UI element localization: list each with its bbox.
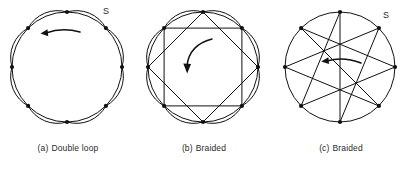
diagram-panel-b: (b)Braided (136, 0, 272, 171)
caption-c: (c)Braided (273, 143, 409, 153)
node (104, 104, 108, 108)
node (162, 26, 166, 30)
figure-root: S (a)Double loop (0, 0, 409, 171)
braided-skip3-diagram: S (273, 0, 409, 140)
node (256, 65, 260, 69)
node (10, 65, 14, 69)
node (162, 104, 166, 108)
node (65, 120, 69, 124)
caption-b: (b)Braided (136, 143, 272, 153)
caption-label-c: Braided (333, 143, 363, 153)
node (26, 26, 30, 30)
node (120, 65, 124, 69)
caption-label-b: Braided (196, 143, 226, 153)
direction-arrow-c (321, 57, 361, 64)
caption-tag-a: (a) (38, 143, 49, 153)
node (393, 65, 397, 69)
node (338, 10, 342, 14)
node (240, 26, 244, 30)
caption-tag-c: (c) (319, 143, 329, 153)
double-loop-diagram: S (0, 0, 136, 140)
node-group-a (10, 10, 124, 124)
caption-tag-b: (b) (182, 143, 193, 153)
caption-a: (a)Double loop (0, 143, 136, 153)
diagram-panel-c: S (c)Braided (273, 0, 409, 171)
node (201, 10, 205, 14)
node (299, 26, 303, 30)
direction-arrow-b (183, 39, 212, 74)
caption-label-a: Double loop (51, 143, 98, 153)
node (65, 10, 69, 14)
node-group-b (146, 10, 260, 124)
node (338, 120, 342, 124)
direction-arrow-a (41, 29, 81, 36)
node (299, 104, 303, 108)
node (201, 120, 205, 124)
diagram-panel-a: S (a)Double loop (0, 0, 136, 171)
braided-skip2-diagram (136, 0, 272, 140)
node (377, 26, 381, 30)
node (240, 104, 244, 108)
source-label-c: S (383, 10, 389, 20)
node (283, 65, 287, 69)
node (377, 104, 381, 108)
node (26, 104, 30, 108)
node (146, 65, 150, 69)
node (104, 26, 108, 30)
source-label-a: S (103, 6, 109, 16)
